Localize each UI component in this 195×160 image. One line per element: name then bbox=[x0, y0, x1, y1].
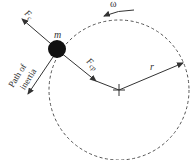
radius-label: r bbox=[150, 61, 154, 72]
mass-label: m bbox=[54, 29, 61, 40]
mass-ball bbox=[48, 40, 66, 58]
path-of-inertia-label: Path of inertia bbox=[6, 61, 38, 95]
angular-velocity-label: ω bbox=[110, 0, 117, 9]
circular-motion-diagram: r Fc Fcp Path of inertia ω m bbox=[0, 0, 195, 160]
centripetal-force-label: Fcp bbox=[83, 55, 101, 73]
centrifugal-force-label: Fc bbox=[21, 7, 37, 23]
angular-velocity-arrow bbox=[104, 10, 134, 16]
